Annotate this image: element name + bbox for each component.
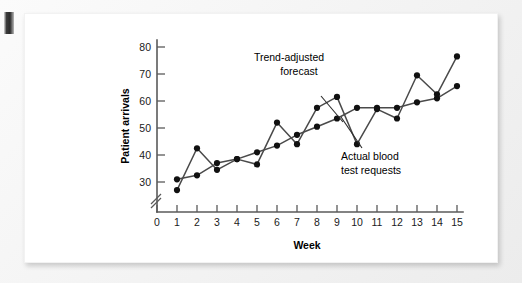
- line-chart: 80 70 60 50 40 30 Patient arrivals: [25, 14, 497, 262]
- data-point: [234, 156, 240, 162]
- y-axis-title: Patient arrivals: [119, 88, 131, 163]
- data-point: [214, 167, 220, 173]
- y-axis-tick-labels: 80 70 60 50 40 30: [139, 41, 151, 188]
- y-tick-label: 60: [139, 95, 151, 107]
- data-point: [394, 115, 400, 121]
- data-point: [194, 145, 200, 151]
- x-tick-label: 14: [431, 216, 443, 228]
- annotation-actual-blood-test-requests: Actual blood test requests: [341, 150, 401, 176]
- x-tick-label: 5: [254, 216, 260, 228]
- annotation-trend-adjusted-forecast: Trend-adjusted forecast: [254, 51, 324, 77]
- data-point: [294, 141, 300, 147]
- data-point: [414, 99, 420, 105]
- data-point: [214, 160, 220, 166]
- data-point: [334, 94, 340, 100]
- data-point: [274, 120, 280, 126]
- data-point: [374, 106, 380, 112]
- y-tick-label: 50: [139, 122, 151, 134]
- leader-line-actual: [341, 117, 362, 148]
- data-point: [414, 72, 420, 78]
- x-tick-label: 15: [451, 216, 463, 228]
- annotation-line-2: forecast: [280, 65, 317, 77]
- data-point: [274, 143, 280, 149]
- x-tick-label: 12: [391, 216, 403, 228]
- data-point: [294, 132, 300, 138]
- x-tick-label: 10: [351, 216, 363, 228]
- x-tick-label: 9: [334, 216, 340, 228]
- y-tick-label: 80: [139, 41, 151, 53]
- x-tick-label: 4: [234, 216, 240, 228]
- y-tick-label: 40: [139, 149, 151, 161]
- x-axis-tick-labels: 0 1 2 3 4 5 6 7 8 9 10 11 12 13 14 15: [154, 216, 463, 228]
- x-axis-title: Week: [293, 239, 320, 251]
- x-tick-label: 1: [174, 216, 180, 228]
- data-point: [434, 91, 440, 97]
- data-point: [174, 176, 180, 182]
- data-point: [394, 105, 400, 111]
- data-point: [314, 124, 320, 130]
- y-tick-label: 70: [139, 68, 151, 80]
- axis-break-icon: [151, 194, 161, 208]
- x-tick-label: 11: [372, 216, 383, 228]
- x-tick-label: 3: [214, 216, 220, 228]
- page-edge-mark: [4, 12, 14, 34]
- x-tick-label: 8: [314, 216, 320, 228]
- x-tick-label: 6: [274, 216, 280, 228]
- x-tick-label: 7: [294, 216, 300, 228]
- data-point: [334, 115, 340, 121]
- annotation-line-1: Actual blood: [341, 150, 399, 162]
- data-point: [254, 161, 260, 167]
- chart-svg: 80 70 60 50 40 30 Patient arrivals: [25, 14, 497, 262]
- figure-panel: 80 70 60 50 40 30 Patient arrivals: [24, 13, 498, 263]
- data-point: [194, 172, 200, 178]
- x-tick-label: 13: [411, 216, 423, 228]
- data-point: [454, 83, 460, 89]
- annotation-line-1: Trend-adjusted: [254, 51, 324, 63]
- y-axis-ticks: [157, 47, 165, 182]
- annotation-line-2: test requests: [341, 164, 401, 176]
- data-point: [254, 149, 260, 155]
- y-tick-label: 30: [139, 176, 151, 188]
- x-tick-label: 0: [154, 216, 160, 228]
- data-point: [454, 53, 460, 59]
- x-tick-label: 2: [194, 216, 200, 228]
- data-point: [174, 187, 180, 193]
- data-point: [354, 105, 360, 111]
- x-axis-ticks: [157, 205, 457, 212]
- data-point: [314, 105, 320, 111]
